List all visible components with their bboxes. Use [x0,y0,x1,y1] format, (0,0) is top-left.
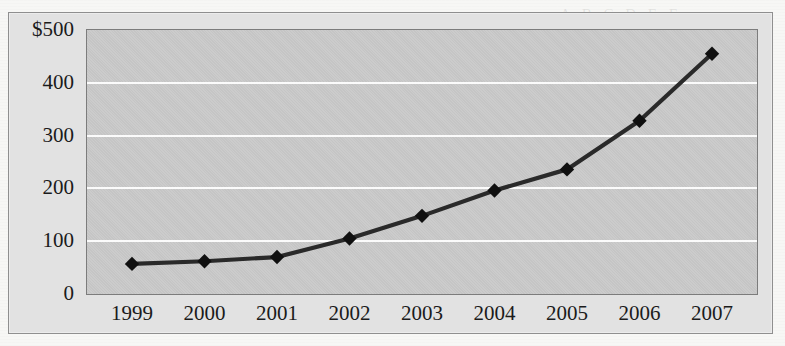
x-axis-tick-label: 2001 [237,303,317,324]
x-axis-tick-label: 2006 [600,303,680,324]
data-point-marker [125,257,139,271]
x-axis-tick-label: 2007 [672,303,752,324]
plot-area [86,29,758,295]
data-point-marker [415,209,429,223]
data-point-marker [270,250,284,264]
data-point-marker [197,254,211,268]
x-axis-tick-label: 2002 [310,303,390,324]
y-axis-tick-label: 200 [43,177,75,198]
chart-frame: 0100200300400$500 1999200020012002200320… [8,12,773,334]
data-point-marker [487,183,501,197]
x-axis-tick-label: 1999 [92,303,172,324]
data-point-marker [342,231,356,245]
x-axis-tick-label: 2005 [527,303,607,324]
x-axis-tick-label: 2004 [455,303,535,324]
x-axis-tick-label: 2003 [382,303,462,324]
y-axis-tick-label: $500 [32,19,74,40]
series-line [132,54,712,264]
page-background: the most recent years in a row been for … [0,0,785,346]
y-axis-tick-label: 300 [43,125,75,146]
line-series [87,30,757,294]
y-axis-tick-label: 0 [64,283,75,304]
y-axis-tick-label: 100 [43,230,75,251]
x-axis-tick-label: 2000 [165,303,245,324]
y-axis-tick-label: 400 [43,72,75,93]
